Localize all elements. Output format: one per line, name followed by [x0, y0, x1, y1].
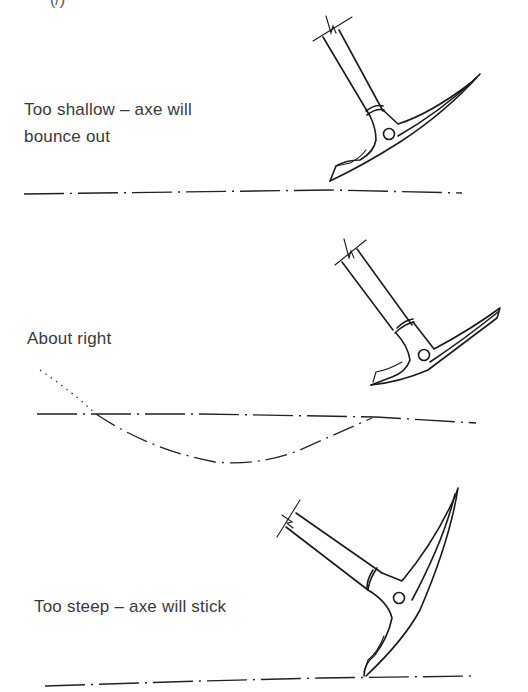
ice-axe-icon [335, 239, 500, 385]
ground-line-icon [24, 190, 462, 194]
ice-axe-angle-diagram: (/) Too shallow – axe will bounce out Ab… [0, 0, 528, 692]
ice-axe-icon [277, 488, 458, 676]
ground-line-icon [45, 676, 476, 686]
drawing-layer [0, 0, 528, 692]
ice-axe-icon [313, 16, 480, 181]
